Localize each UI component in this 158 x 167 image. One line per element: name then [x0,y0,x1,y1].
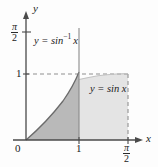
figure-container: y x 0 π 2 1 1 π 2 y = sin−1x y = sin x [0,0,158,167]
y-tick-label-pi-2: π 2 [11,22,18,43]
arcsine-label-text: y = sin [34,35,63,46]
arcsine-label-variable: x [73,35,78,46]
x-tick-label-1: 1 [76,143,82,154]
x-axis-arrow-icon [135,137,143,143]
x-axis-label: x [146,133,151,144]
y-axis-label: y [33,3,38,14]
arcsine-label-exponent: −1 [63,32,71,41]
x-tick-label-pi-2: π 2 [123,143,130,164]
origin-label: 0 [15,143,21,154]
x-tick-pi-denominator: 2 [123,154,130,164]
y-tick-label-1: 1 [16,68,22,79]
y-tick-pi-denominator: 2 [11,33,18,43]
arcsine-region-fill [26,72,79,140]
arcsine-curve-label: y = sin−1x [34,33,78,46]
y-axis-arrow-icon [23,11,29,19]
sine-curve-label: y = sin x [90,84,127,95]
